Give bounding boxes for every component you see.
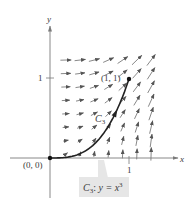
field-arrow-icon xyxy=(106,111,112,117)
x-axis-label: x xyxy=(179,154,184,164)
field-arrow-icon xyxy=(148,94,154,107)
field-arrow-icon xyxy=(75,73,85,74)
field-arrow-icon xyxy=(122,136,124,145)
field-arrow-icon xyxy=(94,151,95,157)
field-arrow-icon xyxy=(89,72,99,75)
field-arrow-icon xyxy=(118,57,128,64)
field-arrow-icon xyxy=(148,81,155,93)
curve-callout: C3: y = x3 xyxy=(79,160,129,197)
y-axis-label: y xyxy=(46,14,51,24)
field-arrow-icon xyxy=(134,95,140,105)
field-arrow-icon xyxy=(77,113,84,115)
curve-c3 xyxy=(50,79,129,158)
field-arrow-icon xyxy=(150,121,153,134)
curve-label: C3 xyxy=(95,113,106,126)
field-arrow-icon xyxy=(77,126,83,128)
field-arrow-icon xyxy=(133,69,142,79)
field-arrow-icon xyxy=(89,59,100,62)
callout-exponent: 3 xyxy=(119,181,123,189)
field-arrow-icon xyxy=(90,85,99,88)
curve-label-sub: 3 xyxy=(102,118,106,126)
field-arrow-icon xyxy=(132,55,142,65)
field-arrow-icon xyxy=(90,99,98,102)
point-one-one xyxy=(127,77,131,81)
field-arrow-icon xyxy=(92,125,97,129)
field-arrow-icon xyxy=(147,68,155,80)
field-arrow-icon xyxy=(62,114,69,115)
field-arrow-icon xyxy=(150,134,152,147)
field-arrow-icon xyxy=(62,100,70,101)
field-arrow-icon xyxy=(120,110,125,118)
line-integral-diagram: C3: y = x3 x y 1 1 (0, 0) (1, 1) C3 xyxy=(0,0,191,208)
field-arrow-icon xyxy=(147,55,155,66)
field-arrow-icon xyxy=(121,123,125,131)
field-arrow-icon xyxy=(78,139,83,142)
field-arrow-icon xyxy=(122,150,123,159)
field-arrow-icon xyxy=(135,122,138,133)
field-arrow-icon xyxy=(133,82,140,92)
x-tick-label: 1 xyxy=(127,165,132,175)
field-arrow-icon xyxy=(63,127,69,128)
svg-text:C3: y = x3: C3: y = x3 xyxy=(83,181,123,195)
field-arrow-icon xyxy=(76,86,85,87)
point-one-one-label: (1, 1) xyxy=(101,73,121,83)
field-arrow-icon xyxy=(104,84,112,89)
field-arrow-icon xyxy=(75,59,86,60)
field-arrow-icon xyxy=(149,107,153,120)
field-arrow-icon xyxy=(136,135,138,146)
field-arrow-icon xyxy=(64,153,67,156)
callout-connector xyxy=(98,160,108,178)
field-arrow-icon xyxy=(108,151,109,158)
y-tick-label: 1 xyxy=(38,73,43,83)
field-arrow-icon xyxy=(103,58,114,63)
vector-field xyxy=(60,55,155,161)
callout-equation: y = x xyxy=(97,182,119,193)
field-arrow-icon xyxy=(76,100,84,102)
point-origin-label: (0, 0) xyxy=(23,160,43,170)
curve-direction-arrow-icon xyxy=(112,109,118,117)
field-arrow-icon xyxy=(135,109,140,119)
field-arrow-icon xyxy=(63,140,68,141)
field-arrow-icon xyxy=(105,98,112,104)
point-origin xyxy=(48,156,52,160)
field-arrow-icon xyxy=(107,137,110,144)
